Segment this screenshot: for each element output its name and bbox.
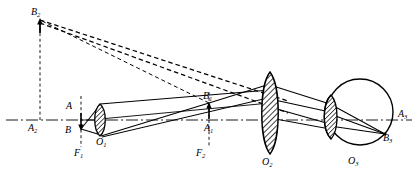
ray-chief-through-b1 — [102, 97, 272, 137]
construction-ray-upper — [40, 20, 288, 101]
label-lens1-center: O1 — [96, 137, 106, 147]
construction-ray-to-b1 — [42, 21, 209, 103]
label-eye-lens-center: O3 — [348, 156, 358, 166]
ray-lower-lens1-to-b1 — [101, 103, 209, 136]
construction-ray-lower — [40, 23, 288, 113]
label-image1-bottom: A1 — [204, 123, 213, 133]
intermediate-image-arrow-head — [206, 102, 211, 109]
ray-eye-to-retina-mid — [330, 114, 385, 134]
ray-b1-to-lens2-lower — [209, 84, 270, 103]
eyepiece-lens — [262, 72, 279, 154]
label-image1-top: B1 — [203, 91, 212, 101]
label-retina-image: B3 — [383, 133, 392, 143]
label-focus1: F1 — [74, 148, 83, 158]
ray-axial-lens1-to-lens2 — [100, 103, 270, 119]
label-lens2-center: O2 — [262, 157, 272, 167]
figure-canvas: A B O1 F1 B1 A1 F2 O2 O3 B2 A2 A3 B3 — [0, 0, 418, 180]
label-object-bottom: B — [65, 125, 71, 135]
objective-lens — [95, 104, 106, 136]
label-retina-axis: A3 — [398, 109, 407, 119]
label-virtual-bottom: A2 — [28, 123, 37, 133]
label-focus2: F2 — [196, 148, 205, 158]
label-virtual-top: B2 — [31, 7, 40, 17]
label-object-top: A — [66, 101, 72, 111]
